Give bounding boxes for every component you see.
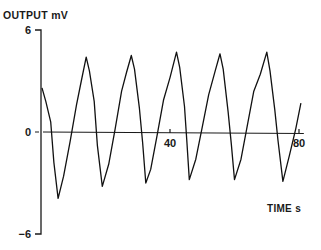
line-chart: OUTPUT mV 60−6 4080 TIME s [0,0,321,250]
zero-line [35,132,304,134]
y-tick-label: 0 [25,126,31,138]
x-axis-ticks: 4080 [164,129,305,149]
y-tick-label: 6 [25,24,31,36]
x-axis-label: TIME s [267,203,301,214]
x-tick-label: 80 [293,137,305,149]
y-axis-label: OUTPUT mV [3,9,68,21]
y-tick-label: −6 [18,228,31,240]
y-axis-ticks: 60−6 [18,24,31,240]
output-trace [42,52,301,198]
x-tick-label: 40 [164,137,176,149]
